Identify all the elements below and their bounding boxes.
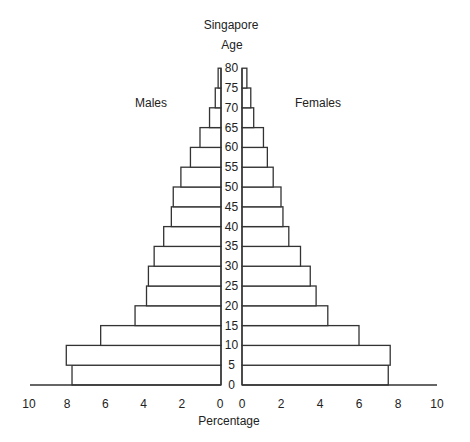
male-bar-65-69 <box>210 108 221 128</box>
age-tick-40: 40 <box>225 220 239 234</box>
male-bar-55-59 <box>190 147 221 167</box>
female-bar-65-69 <box>242 108 254 128</box>
female-bars <box>242 68 390 385</box>
age-tick-25: 25 <box>225 279 239 293</box>
male-bar-0-4 <box>72 365 221 385</box>
age-tick-50: 50 <box>225 180 239 194</box>
x-tick-left-0: 0 <box>217 397 224 411</box>
x-tick-right-6: 6 <box>356 397 363 411</box>
x-axis-label: Percentage <box>198 414 259 428</box>
x-tick-left-8: 8 <box>64 397 71 411</box>
x-tick-right-4: 4 <box>317 397 324 411</box>
x-tick-right-0: 0 <box>239 397 246 411</box>
age-tick-20: 20 <box>225 299 239 313</box>
female-bar-20-24 <box>242 286 316 306</box>
female-bar-40-44 <box>242 207 283 227</box>
male-bar-5-9 <box>66 345 221 365</box>
x-tick-left-2: 2 <box>178 397 185 411</box>
x-tick-left-6: 6 <box>102 397 109 411</box>
male-bar-45-49 <box>173 187 221 207</box>
male-bar-40-44 <box>171 207 221 227</box>
female-bar-0-4 <box>242 365 388 385</box>
age-tick-55: 55 <box>225 160 239 174</box>
male-bar-70-74 <box>215 88 221 108</box>
male-bar-20-24 <box>147 286 221 306</box>
age-tick-45: 45 <box>225 200 239 214</box>
age-tick-65: 65 <box>225 121 239 135</box>
age-tick-70: 70 <box>225 101 239 115</box>
female-bar-25-29 <box>242 266 310 286</box>
male-bar-15-19 <box>135 306 221 326</box>
age-tick-80: 80 <box>225 61 239 75</box>
x-tick-right-2: 2 <box>278 397 285 411</box>
population-pyramid-chart: 05101520253035404550556065707580 1086420… <box>0 0 470 442</box>
age-tick-10: 10 <box>225 338 239 352</box>
male-bar-50-54 <box>181 167 221 187</box>
female-bar-75-79 <box>242 68 247 88</box>
x-tick-left-4: 4 <box>140 397 147 411</box>
x-tick-labels: 10864200246810 <box>22 397 444 411</box>
male-bar-30-34 <box>154 246 221 266</box>
female-bar-45-49 <box>242 187 281 207</box>
female-bar-15-19 <box>242 306 328 326</box>
male-bar-35-39 <box>164 227 221 247</box>
males-label: Males <box>135 96 167 110</box>
age-tick-0: 0 <box>228 378 235 392</box>
age-tick-75: 75 <box>225 81 239 95</box>
females-label: Females <box>295 96 341 110</box>
male-bar-25-29 <box>148 266 221 286</box>
age-tick-30: 30 <box>225 259 239 273</box>
female-bar-60-64 <box>242 128 263 148</box>
female-bar-70-74 <box>242 88 251 108</box>
female-bar-35-39 <box>242 227 289 247</box>
age-axis-label: Age <box>221 38 242 52</box>
age-tick-5: 5 <box>228 358 235 372</box>
age-tick-60: 60 <box>225 140 239 154</box>
age-tick-labels: 05101520253035404550556065707580 <box>225 61 239 392</box>
female-bar-55-59 <box>242 147 267 167</box>
age-tick-35: 35 <box>225 239 239 253</box>
female-bar-10-14 <box>242 326 359 346</box>
female-bar-30-34 <box>242 246 301 266</box>
x-tick-right-10: 10 <box>430 397 444 411</box>
chart-title: Singapore <box>204 18 259 32</box>
x-tick-right-8: 8 <box>395 397 402 411</box>
age-tick-15: 15 <box>225 319 239 333</box>
x-tick-left-10: 10 <box>22 397 36 411</box>
male-bar-60-64 <box>200 128 221 148</box>
female-bar-50-54 <box>242 167 273 187</box>
male-bars <box>66 68 221 385</box>
male-bar-10-14 <box>101 326 221 346</box>
female-bar-5-9 <box>242 345 390 365</box>
